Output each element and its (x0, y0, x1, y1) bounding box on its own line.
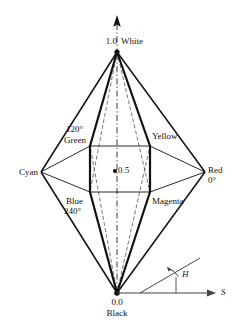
label-cyan: Cyan (19, 167, 38, 177)
hue-saturation-inset (117, 258, 216, 296)
label-magenta: Magenta (152, 196, 184, 206)
mid-intensity-marker (113, 169, 117, 173)
label-yellow: Yellow (152, 131, 178, 141)
label-mid-value: 0.5 (118, 165, 129, 175)
label-blue: Blue (66, 196, 83, 206)
label-hue-axis: H (182, 269, 189, 279)
label-white: White (121, 36, 143, 46)
label-saturation-axis: S (221, 287, 226, 297)
label-green-hue: 120° (66, 124, 83, 134)
label-bottom-value: 0.0 (111, 297, 122, 307)
label-top-value: 1.0 (106, 36, 117, 46)
label-red-hue: 0° (208, 175, 216, 185)
label-blue-hue: 240° (64, 206, 81, 216)
hsi-color-model-figure: 1.0 White 120° Green Yellow Cyan Red 0° … (0, 0, 235, 329)
label-red: Red (208, 165, 223, 175)
hexagon-front-edges-thin (41, 172, 205, 192)
label-black: Black (107, 308, 128, 318)
label-green: Green (64, 135, 86, 145)
